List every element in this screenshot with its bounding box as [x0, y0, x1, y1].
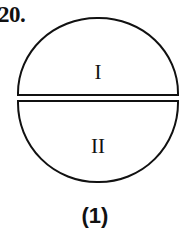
upper-half-disc	[17, 17, 179, 96]
circle-diagram: I II	[17, 17, 179, 183]
figure-caption: (1)	[0, 203, 190, 229]
region-label-ii: II	[17, 136, 179, 157]
region-label-i: I	[17, 62, 179, 83]
figure-screenshot: 20. I II (1)	[0, 0, 190, 238]
